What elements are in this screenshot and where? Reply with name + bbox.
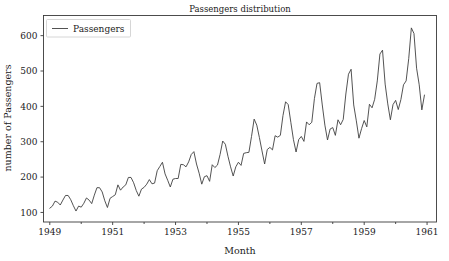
x-axis-title: Month bbox=[224, 245, 256, 256]
x-tick-label: 1959 bbox=[353, 227, 376, 237]
x-tick-label: 1953 bbox=[164, 227, 187, 237]
y-axis-title: number of Passengers bbox=[2, 64, 13, 171]
y-tick-label: 400 bbox=[20, 102, 37, 112]
y-tick-label: 300 bbox=[20, 137, 37, 147]
legend-label-passengers: Passengers bbox=[73, 24, 125, 34]
chart-figure: Passengers distribution 1002003004005006… bbox=[0, 0, 449, 261]
y-tick-label: 100 bbox=[20, 208, 37, 218]
x-tick-label: 1951 bbox=[101, 227, 124, 237]
chart-title: Passengers distribution bbox=[189, 4, 291, 14]
x-tick-label: 1957 bbox=[290, 227, 313, 237]
x-tick-label: 1955 bbox=[227, 227, 250, 237]
chart-legend[interactable]: Passengers bbox=[47, 20, 131, 38]
y-tick-label: 200 bbox=[20, 172, 37, 182]
passengers-line-chart: Passengers distribution 1002003004005006… bbox=[0, 0, 449, 261]
x-tick-label: 1949 bbox=[38, 227, 61, 237]
y-tick-label: 500 bbox=[20, 66, 37, 76]
x-tick-label: 1961 bbox=[416, 227, 439, 237]
y-tick-label: 600 bbox=[20, 31, 37, 41]
